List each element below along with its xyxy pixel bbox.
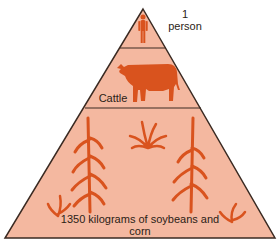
top-level-label: 1 person — [160, 8, 210, 32]
pyramid-graphic — [0, 0, 279, 246]
base-level-label: 1350 kilograms of soybeans and corn — [40, 213, 240, 237]
top-level-count: 1 — [160, 8, 210, 20]
middle-level-label: Cattle — [88, 92, 138, 104]
base-level-line2: corn — [40, 225, 240, 237]
top-level-name: person — [160, 20, 210, 32]
base-level-line1: 1350 kilograms of soybeans and — [40, 213, 240, 225]
